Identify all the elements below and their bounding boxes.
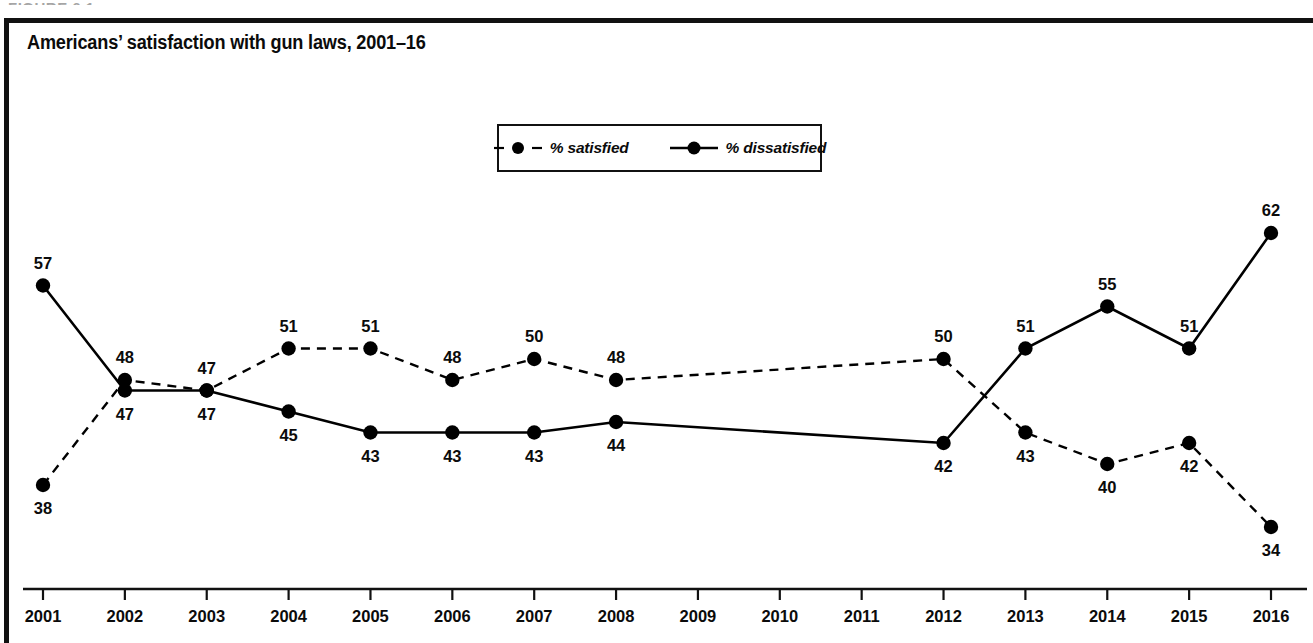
data-point	[1182, 341, 1196, 355]
data-point-label: 43	[1016, 447, 1034, 465]
data-point-label: 42	[934, 457, 952, 475]
data-point-label: 51	[361, 317, 379, 335]
data-point-label: 38	[34, 499, 52, 517]
data-point-label: 48	[443, 348, 461, 366]
data-point-label: 50	[934, 327, 952, 345]
x-axis-tick-label: 2003	[188, 607, 225, 625]
data-point	[36, 278, 50, 292]
x-axis-tick-label: 2011	[844, 607, 880, 625]
data-point	[363, 341, 377, 355]
data-point-label: 47	[116, 405, 134, 423]
data-point	[200, 383, 214, 397]
series-line-satisfied	[43, 349, 1271, 528]
data-point	[936, 436, 950, 450]
x-axis-tick-label: 2004	[270, 607, 308, 625]
x-axis-tick-label: 2001	[25, 607, 62, 625]
data-point-label: 44	[607, 436, 626, 454]
chart-plot-area: 2001200220032004200520062007200820092010…	[0, 0, 1313, 643]
data-point-label: 45	[279, 426, 297, 444]
data-point	[1018, 341, 1032, 355]
data-point-label: 51	[1016, 317, 1034, 335]
data-point-label: 43	[361, 447, 379, 465]
figure-container: FIGURE 6.1 Americans’ satisfaction with …	[0, 0, 1313, 643]
data-point	[1264, 226, 1278, 240]
data-point-label: 34	[1262, 541, 1281, 559]
data-point	[1018, 425, 1032, 439]
x-axis-tick-label: 2002	[107, 607, 144, 625]
data-point	[527, 425, 541, 439]
data-point	[36, 478, 50, 492]
data-point	[445, 425, 459, 439]
data-point-label: 42	[1180, 457, 1198, 475]
data-point	[609, 415, 623, 429]
data-point	[1100, 299, 1114, 313]
data-point	[445, 373, 459, 387]
data-point-label: 48	[116, 348, 134, 366]
data-point	[1100, 457, 1114, 471]
x-axis-tick-label: 2012	[925, 607, 962, 625]
data-point-label: 57	[34, 254, 52, 272]
x-axis-tick-label: 2008	[598, 607, 635, 625]
data-point	[527, 352, 541, 366]
data-point	[118, 383, 132, 397]
data-label-layer: 3848475151485048504340423457474745434343…	[34, 201, 1281, 559]
data-point-label: 51	[279, 317, 297, 335]
x-axis-tick-label: 2009	[680, 607, 717, 625]
data-point	[363, 425, 377, 439]
data-point	[1264, 520, 1278, 534]
data-point-label: 43	[525, 447, 543, 465]
data-point-label: 43	[443, 447, 461, 465]
x-axis-tick-label: 2005	[352, 607, 389, 625]
x-axis-tick-label: 2014	[1089, 607, 1127, 625]
x-axis-tick-label: 2016	[1253, 607, 1290, 625]
x-axis-tick-label: 2006	[434, 607, 471, 625]
data-point-label: 62	[1262, 201, 1280, 219]
data-point	[1182, 436, 1196, 450]
data-point	[281, 341, 295, 355]
data-point-label: 51	[1180, 317, 1198, 335]
data-point	[281, 404, 295, 418]
x-axis-tick-label: 2010	[761, 607, 798, 625]
data-point-label: 47	[198, 359, 216, 377]
data-point-label: 55	[1098, 275, 1116, 293]
x-axis-tick-label: 2015	[1171, 607, 1208, 625]
data-point-label: 50	[525, 327, 543, 345]
data-point	[936, 352, 950, 366]
x-axis-tick-label: 2013	[1007, 607, 1044, 625]
series-line-dissatisfied	[43, 233, 1271, 443]
data-point-label: 48	[607, 348, 625, 366]
data-point	[609, 373, 623, 387]
data-point-label: 47	[198, 405, 216, 423]
x-axis-tick-label: 2007	[516, 607, 553, 625]
data-point-label: 40	[1098, 478, 1116, 496]
series-layer	[36, 226, 1278, 534]
x-axis: 2001200220032004200520062007200820092010…	[23, 589, 1307, 625]
